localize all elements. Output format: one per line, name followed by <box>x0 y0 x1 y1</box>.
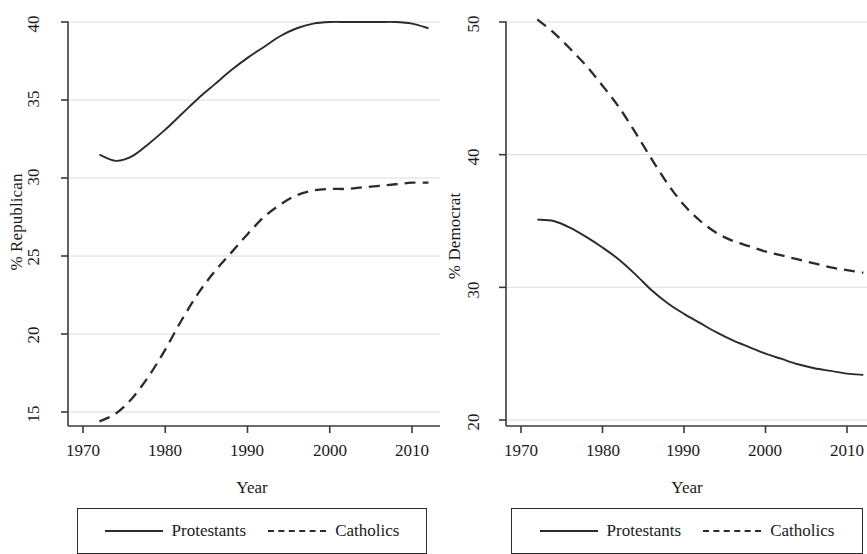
democrat-series-protestants <box>537 220 863 375</box>
democrat-series <box>537 19 863 375</box>
republican-y-tick-25: 25 <box>24 237 44 277</box>
republican-series-catholics <box>99 183 428 422</box>
dashed-line-swatch-icon <box>268 530 326 532</box>
republican-legend: Protestants Catholics <box>77 508 427 554</box>
democrat-axes <box>499 22 867 434</box>
panel-democrat: % Democrat 50 40 30 20 1970 1980 1990 20… <box>440 0 867 546</box>
republican-gridlines <box>68 22 440 412</box>
solid-line-swatch-icon <box>540 530 598 532</box>
republican-plot-area <box>0 0 440 546</box>
democrat-x-tick-1970: 1970 <box>504 441 538 461</box>
democrat-legend-label-catholics: Catholics <box>770 521 834 541</box>
republican-y-tick-40: 40 <box>24 4 44 44</box>
solid-line-swatch-icon <box>105 530 163 532</box>
democrat-legend-label-protestants: Protestants <box>607 521 682 541</box>
republican-legend-label-protestants: Protestants <box>172 521 247 541</box>
democrat-series-catholics <box>537 19 863 272</box>
democrat-y-axis-label: % Democrat <box>445 171 465 301</box>
republican-y-tick-30: 30 <box>24 157 44 197</box>
democrat-y-tick-20: 20 <box>464 402 484 442</box>
republican-series <box>99 22 428 421</box>
democrat-x-tick-1980: 1980 <box>586 441 620 461</box>
republican-y-tick-15: 15 <box>24 394 44 434</box>
democrat-legend: Protestants Catholics <box>511 508 863 554</box>
panel-republican: % Republican 40 35 30 25 20 15 1970 1980… <box>0 0 440 546</box>
democrat-y-tick-30: 30 <box>464 270 484 310</box>
democrat-x-axis-label: Year <box>671 478 702 498</box>
democrat-x-tick-2000: 2000 <box>748 441 782 461</box>
republican-y-tick-20: 20 <box>24 315 44 355</box>
democrat-legend-entry-catholics: Catholics <box>703 521 834 541</box>
republican-x-tick-1980: 1980 <box>148 441 182 461</box>
republican-legend-entry-protestants: Protestants <box>105 521 247 541</box>
republican-legend-label-catholics: Catholics <box>335 521 399 541</box>
republican-y-tick-35: 35 <box>24 79 44 119</box>
democrat-plot-area <box>440 0 867 546</box>
republican-series-protestants <box>99 22 428 161</box>
republican-x-tick-2010: 2010 <box>395 441 429 461</box>
republican-x-axis-label: Year <box>236 478 267 498</box>
democrat-y-tick-50: 50 <box>464 4 484 44</box>
republican-x-tick-2000: 2000 <box>313 441 347 461</box>
democrat-legend-entry-protestants: Protestants <box>540 521 682 541</box>
republican-axes <box>61 22 440 434</box>
democrat-y-tick-40: 40 <box>464 137 484 177</box>
republican-x-tick-1990: 1990 <box>230 441 264 461</box>
democrat-x-tick-2010: 2010 <box>830 441 864 461</box>
republican-x-tick-1970: 1970 <box>66 441 100 461</box>
republican-legend-entry-catholics: Catholics <box>268 521 399 541</box>
democrat-gridlines <box>506 22 867 420</box>
democrat-x-tick-1990: 1990 <box>666 441 700 461</box>
dashed-line-swatch-icon <box>703 530 761 532</box>
